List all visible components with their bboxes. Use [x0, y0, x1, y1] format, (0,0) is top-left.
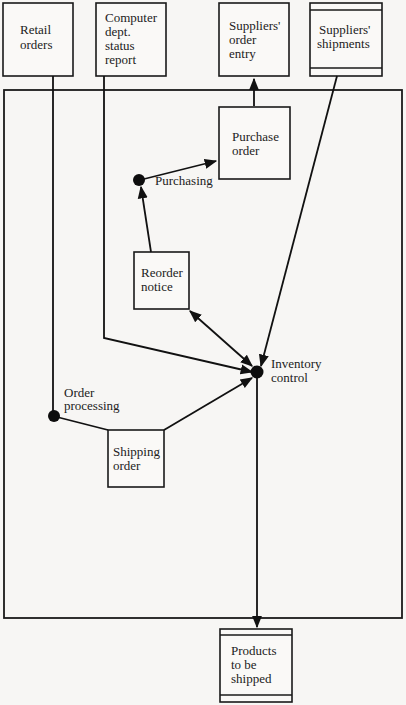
products-line-1: Products — [231, 643, 277, 658]
computer-dept-status-report-box: Computer dept. status report — [96, 3, 166, 76]
shipping-order-line-1: Shipping — [113, 444, 160, 459]
computer-dept-line-2: dept. — [105, 24, 131, 39]
reorder-notice-box: Reorder notice — [134, 252, 189, 309]
products-line-3: shipped — [231, 671, 272, 686]
computer-dept-line-3: status — [105, 38, 135, 53]
suppliers-order-entry-line-1: Suppliers' — [229, 18, 280, 33]
computer-dept-line-1: Computer — [105, 10, 158, 25]
edge-reorder-inventory-bidirectional — [190, 311, 252, 366]
edge-reorder-to-purchasing — [141, 187, 151, 252]
purchase-order-line-1: Purchase — [232, 129, 279, 144]
system-boundary — [4, 90, 402, 618]
purchase-order-box: Purchase order — [219, 107, 290, 179]
suppliers-order-entry-box: Suppliers' order entry — [219, 3, 289, 76]
suppliers-shipments-box: Suppliers' shipments — [310, 3, 382, 76]
reorder-notice-line-2: notice — [141, 279, 173, 294]
suppliers-order-entry-line-3: entry — [229, 46, 256, 61]
retail-orders-box: Retail orders — [3, 3, 73, 76]
inventory-control-dot — [251, 366, 264, 379]
purchasing-dot — [133, 174, 145, 186]
reorder-notice-line-1: Reorder — [141, 265, 184, 280]
order-processing-label-2: processing — [64, 398, 120, 413]
retail-orders-line-1: Retail — [20, 22, 51, 37]
suppliers-order-entry-line-2: order — [229, 32, 257, 47]
suppliers-shipments-line-1: Suppliers' — [319, 22, 370, 37]
purchasing-node: Purchasing — [133, 173, 213, 188]
inventory-control-node: Inventory control — [251, 356, 323, 385]
suppliers-shipments-line-2: shipments — [317, 36, 370, 51]
purchasing-label: Purchasing — [155, 173, 213, 188]
computer-dept-line-4: report — [105, 52, 136, 67]
products-line-2: to be — [231, 657, 257, 672]
products-to-be-shipped-box: Products to be shipped — [220, 629, 292, 702]
edge-order-processing-to-shipping — [53, 416, 108, 430]
inventory-flow-diagram: Retail orders Computer dept. status repo… — [0, 0, 406, 705]
shipping-order-line-2: order — [113, 458, 141, 473]
purchase-order-line-2: order — [232, 143, 260, 158]
order-processing-node: Order processing — [48, 385, 120, 422]
edge-shipping-to-inventory — [164, 378, 252, 430]
inventory-control-label-2: control — [271, 370, 308, 385]
retail-orders-line-2: orders — [20, 37, 53, 52]
order-processing-dot — [48, 410, 60, 422]
shipping-order-box: Shipping order — [108, 430, 164, 487]
inventory-control-label-1: Inventory — [271, 356, 322, 371]
